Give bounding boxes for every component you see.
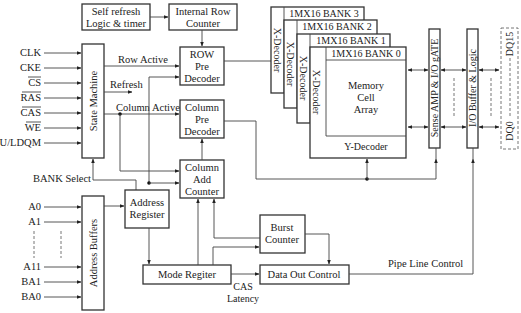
row-pre-decoder-block: ROW Pre Decoder xyxy=(180,47,224,85)
io-buffer-block: I/O Buffer & Logic xyxy=(467,29,478,148)
svg-text:1MX16 BANK 3: 1MX16 BANK 3 xyxy=(289,8,358,19)
address-inputs: A0 A1 A11 BA1 BA0 xyxy=(21,201,81,302)
svg-text:DQ15: DQ15 xyxy=(504,32,515,56)
svg-text:State Machine: State Machine xyxy=(88,70,99,131)
svg-text:X-Decoder: X-Decoder xyxy=(272,28,283,73)
svg-text:CAS: CAS xyxy=(233,281,252,292)
svg-text:Refresh: Refresh xyxy=(110,79,143,90)
address-register-block: Address Register xyxy=(125,190,169,228)
svg-text:1MX16 BANK 2: 1MX16 BANK 2 xyxy=(302,21,371,32)
mode-register-block: Mode Regiter xyxy=(143,265,231,284)
svg-text:X-Decoder: X-Decoder xyxy=(311,70,322,115)
data-out-control-block: Data Out Control xyxy=(260,265,349,284)
svg-text:Latency: Latency xyxy=(227,293,259,304)
svg-text:Add: Add xyxy=(193,174,212,185)
svg-text:Pre: Pre xyxy=(195,114,209,125)
svg-text:CAS: CAS xyxy=(21,107,42,118)
svg-text:A1: A1 xyxy=(28,216,41,227)
svg-text:Pipe Line Control: Pipe Line Control xyxy=(388,258,463,269)
svg-text:BA0: BA0 xyxy=(21,291,41,302)
address-buffers-block: Address Buffers xyxy=(82,196,104,310)
svg-text:Data Out Control: Data Out Control xyxy=(268,269,341,280)
svg-text:CLK: CLK xyxy=(20,47,41,58)
svg-text:U/LDQM: U/LDQM xyxy=(0,137,42,148)
svg-text:Self refresh: Self refresh xyxy=(92,6,141,17)
svg-text:Column: Column xyxy=(185,162,220,173)
svg-text:1MX16 BANK 1: 1MX16 BANK 1 xyxy=(316,35,385,46)
svg-text:RAS: RAS xyxy=(21,92,42,103)
svg-text:A0: A0 xyxy=(28,201,41,212)
svg-text:DQ0: DQ0 xyxy=(504,121,515,140)
column-add-counter-block: Column Add Counter xyxy=(180,160,224,198)
sense-amp-block: Sense AMP & I/O gATE xyxy=(429,29,440,148)
svg-text:Pre: Pre xyxy=(195,61,209,72)
svg-text:ROW: ROW xyxy=(190,49,215,60)
svg-text:Sense AMP & I/O gATE: Sense AMP & I/O gATE xyxy=(429,39,440,138)
svg-text:Register: Register xyxy=(130,209,165,220)
svg-text:Mode Regiter: Mode Regiter xyxy=(158,269,217,280)
sdram-block-diagram: Self refresh Logic & timer Internal Row … xyxy=(0,0,521,313)
svg-text:BANK Select: BANK Select xyxy=(33,173,91,184)
svg-text:Internal Row: Internal Row xyxy=(175,6,231,17)
svg-text:Decoder: Decoder xyxy=(184,73,220,84)
svg-text:X-Decoder: X-Decoder xyxy=(298,56,309,101)
svg-text:Counter: Counter xyxy=(185,186,219,197)
state-machine-block: State Machine xyxy=(82,44,104,158)
svg-text:Address: Address xyxy=(130,197,164,208)
internal-row-counter-block: Internal Row Counter xyxy=(169,4,237,30)
svg-text:BA1: BA1 xyxy=(21,276,41,287)
svg-text:Memory: Memory xyxy=(348,80,385,91)
svg-text:I/O Buffer & Logic: I/O Buffer & Logic xyxy=(467,49,478,127)
svg-text:Column: Column xyxy=(185,102,220,113)
svg-text:Counter: Counter xyxy=(186,18,220,29)
column-pre-decoder-block: Column Pre Decoder xyxy=(180,100,224,138)
svg-text:Burst: Burst xyxy=(271,222,294,233)
svg-text:Row Active: Row Active xyxy=(118,54,168,65)
svg-text:X-Decoder: X-Decoder xyxy=(285,42,296,87)
svg-text:Logic & timer: Logic & timer xyxy=(86,18,147,29)
dq-pins: DQ15 DQ0 xyxy=(501,28,518,149)
svg-text:Column Active: Column Active xyxy=(116,102,180,113)
svg-text:1MX16 BANK 0: 1MX16 BANK 0 xyxy=(331,48,400,59)
memory-banks: 1MX16 BANK 3 X-Decoder 1MX16 BANK 2 X-De… xyxy=(271,7,406,158)
svg-text:CS: CS xyxy=(28,77,41,88)
svg-text:WE: WE xyxy=(25,122,41,133)
burst-counter-block: Burst Counter xyxy=(260,215,305,253)
control-inputs: CLK CKE CS RAS CAS WE U/LDQM xyxy=(0,47,81,148)
svg-text:Y-Decoder: Y-Decoder xyxy=(344,141,388,152)
svg-text:Cell: Cell xyxy=(357,92,375,103)
svg-text:Decoder: Decoder xyxy=(184,126,220,137)
bank-0: 1MX16 BANK 0 X-Decoder Memory Cell Array… xyxy=(310,47,406,158)
svg-text:A11: A11 xyxy=(23,261,41,272)
self-refresh-logic-block: Self refresh Logic & timer xyxy=(82,4,150,30)
svg-text:Counter: Counter xyxy=(265,234,299,245)
svg-text:Array: Array xyxy=(354,104,379,115)
svg-text:Address Buffers: Address Buffers xyxy=(88,219,99,287)
svg-text:CKE: CKE xyxy=(20,62,41,73)
